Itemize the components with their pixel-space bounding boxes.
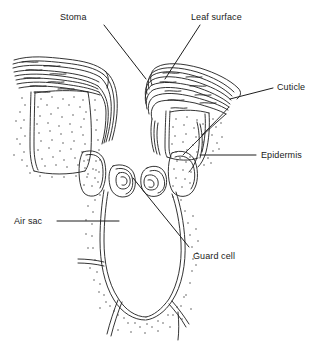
label-guard-cell: Guard cell	[193, 252, 235, 261]
label-cuticle: Cuticle	[277, 83, 305, 92]
label-epidermis: Epidermis	[261, 151, 302, 160]
label-stoma: Stoma	[60, 13, 87, 22]
label-air-sac: Air sac	[14, 217, 42, 226]
label-leaf-surface: Leaf surface	[191, 13, 242, 22]
stoma-cross-section-diagram	[0, 0, 323, 348]
